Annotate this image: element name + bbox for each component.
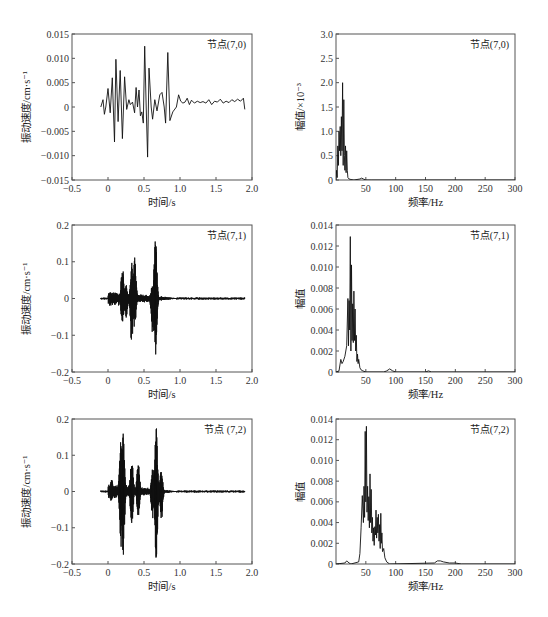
x-tick-label: 0 [106, 375, 111, 386]
x-tick-label: 2.0 [246, 183, 259, 194]
x-tick-label: 1.5 [210, 567, 223, 578]
x-tick-label: 150 [418, 375, 433, 386]
y-tick-label: 1.5 [321, 102, 334, 113]
x-tick-label: 0.5 [138, 183, 151, 194]
y-tick-label: −0.005 [41, 126, 69, 137]
y-tick-label: 0 [64, 486, 69, 497]
y-tick-label: 0.004 [311, 325, 334, 336]
y-tick-label: 0.5 [321, 150, 334, 161]
y-tick-label: −0.010 [41, 150, 69, 161]
node-annotation: 节点 (7,2) [204, 424, 246, 436]
y-tick-label: 0.008 [311, 476, 334, 487]
y-axis-label: 幅值 [294, 288, 306, 309]
y-tick-label: 0.012 [311, 241, 334, 252]
figure-canvas: −0.015−0.010−0.00500.0050.0100.015−0.500… [0, 0, 548, 617]
node-annotation: 节点(7,0) [207, 39, 246, 51]
x-axis-label: 频率/Hz [408, 388, 444, 400]
x-tick-label: 1.5 [210, 375, 223, 386]
node-annotation: 节点(7,2) [470, 424, 509, 436]
data-curve [101, 242, 245, 355]
chart-time-7-2: −0.2−0.100.10.2−0.500.51.01.52.0时间/s振动速度… [20, 414, 258, 593]
x-tick-label: 150 [418, 567, 433, 578]
x-tick-label: 0.5 [138, 567, 151, 578]
x-tick-label: 2.0 [246, 375, 259, 386]
chart-spec-7-2: 00.0020.0040.0060.0080.0100.0120.0145010… [294, 414, 523, 593]
x-tick-label: 2.0 [246, 567, 259, 578]
y-axis-label: 幅值/×10⁻³ [294, 83, 306, 131]
x-axis-label: 频率/Hz [408, 196, 444, 208]
x-tick-label: 1.0 [174, 567, 187, 578]
x-tick-label: 0 [106, 183, 111, 194]
y-tick-label: 0 [64, 293, 69, 304]
y-tick-label: 0.010 [311, 262, 334, 273]
x-tick-label: 1.0 [174, 183, 187, 194]
y-tick-label: 0.006 [311, 496, 334, 507]
x-axis-label: 频率/Hz [408, 580, 444, 592]
plot-frame [336, 34, 515, 180]
y-axis-label: 振动速度/cm·s⁻¹ [20, 262, 32, 334]
x-tick-label: 250 [478, 375, 493, 386]
y-tick-label: 0.1 [57, 450, 70, 461]
x-tick-label: 300 [508, 183, 523, 194]
chart-spec-7-0: 00.51.01.52.02.53.050100150200250300频率/H… [294, 29, 523, 209]
y-axis-label: 振动速度/cm·s⁻¹ [20, 455, 32, 527]
y-tick-label: 0.005 [47, 77, 70, 88]
y-tick-label: 0.014 [311, 220, 334, 231]
x-tick-label: 200 [448, 567, 463, 578]
y-tick-label: 0.008 [311, 283, 334, 294]
y-axis-label: 振动速度/cm·s⁻¹ [20, 71, 32, 143]
y-tick-label: −0.1 [51, 522, 69, 533]
chart-spec-7-1: 00.0020.0040.0060.0080.0100.0120.0145010… [294, 220, 523, 401]
chart-time-7-0: −0.015−0.010−0.00500.0050.0100.015−0.500… [20, 29, 258, 209]
x-tick-label: −0.5 [63, 183, 81, 194]
plot-frame [72, 34, 252, 180]
y-tick-label: 0.015 [47, 29, 70, 40]
y-tick-label: 3.0 [321, 29, 334, 40]
y-tick-label: 0 [64, 102, 69, 113]
y-tick-label: 1.0 [321, 126, 334, 137]
data-curve [336, 83, 515, 180]
plot-frame [336, 419, 515, 564]
y-tick-label: 0.012 [311, 434, 334, 445]
y-axis-label: 幅值 [294, 481, 306, 502]
y-tick-label: 2.0 [321, 77, 334, 88]
y-tick-label: 0.002 [311, 346, 334, 357]
node-annotation: 节点(7,1) [470, 230, 509, 242]
y-tick-label: 0 [328, 367, 333, 378]
y-tick-label: 0.2 [57, 414, 70, 425]
data-curve [336, 426, 515, 564]
x-tick-label: 0 [106, 567, 111, 578]
y-tick-label: 0 [328, 175, 333, 186]
x-tick-label: 50 [361, 567, 371, 578]
x-tick-label: 50 [361, 375, 371, 386]
x-tick-label: 300 [508, 567, 523, 578]
plot-frame [336, 225, 515, 372]
x-tick-label: −0.5 [63, 567, 81, 578]
x-axis-label: 时间/s [148, 388, 175, 400]
x-tick-label: 200 [448, 183, 463, 194]
x-tick-label: 100 [388, 567, 403, 578]
x-tick-label: 250 [478, 567, 493, 578]
data-curve [101, 46, 245, 157]
data-curve [336, 237, 515, 372]
y-tick-label: 0 [328, 559, 333, 570]
y-tick-label: 0.010 [47, 53, 70, 64]
x-tick-label: 300 [508, 375, 523, 386]
x-tick-label: 1.0 [174, 375, 187, 386]
x-tick-label: 50 [361, 183, 371, 194]
node-annotation: 节点(7,1) [207, 230, 246, 242]
y-tick-label: 0.002 [311, 538, 334, 549]
y-tick-label: −0.1 [51, 330, 69, 341]
y-tick-label: 0.010 [311, 455, 334, 466]
x-tick-label: 1.5 [210, 183, 223, 194]
y-tick-label: 0.004 [311, 517, 334, 528]
y-tick-label: 0.2 [57, 220, 70, 231]
x-tick-label: 200 [448, 375, 463, 386]
data-curve [101, 429, 245, 558]
x-tick-label: 100 [388, 375, 403, 386]
y-tick-label: 0.1 [57, 256, 70, 267]
node-annotation: 节点(7,0) [470, 39, 509, 51]
x-tick-label: 100 [388, 183, 403, 194]
y-tick-label: 0.014 [311, 414, 334, 425]
y-tick-label: 2.5 [321, 53, 334, 64]
